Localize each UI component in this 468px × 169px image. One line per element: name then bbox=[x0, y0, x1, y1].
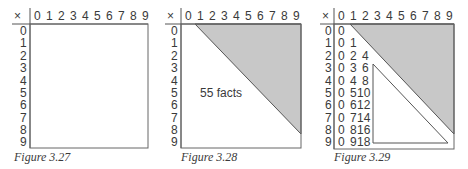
figure-3-27: × 0 1 2 3 4 5 6 7 8 9 0 1 2 3 4 5 6 7 8 … bbox=[0, 0, 156, 169]
shaded-upper-triangle bbox=[195, 24, 301, 134]
svg-text:9: 9 bbox=[350, 135, 357, 149]
svg-text:6: 6 bbox=[362, 61, 369, 75]
svg-text:0: 0 bbox=[338, 135, 345, 149]
svg-text:6: 6 bbox=[350, 98, 357, 112]
svg-text:1: 1 bbox=[20, 36, 27, 50]
svg-text:9: 9 bbox=[142, 9, 149, 23]
row-header-labels: 0 1 2 3 4 5 6 7 8 9 bbox=[20, 24, 27, 149]
svg-text:3: 3 bbox=[325, 61, 332, 75]
svg-text:9: 9 bbox=[446, 9, 453, 23]
svg-text:4: 4 bbox=[82, 9, 89, 23]
svg-text:6: 6 bbox=[171, 98, 178, 112]
svg-text:1: 1 bbox=[325, 36, 332, 50]
svg-text:1: 1 bbox=[350, 9, 357, 23]
svg-text:9: 9 bbox=[171, 135, 178, 149]
grid-frame bbox=[30, 24, 148, 148]
facts-count-label: 55 facts bbox=[200, 86, 242, 100]
svg-text:0: 0 bbox=[338, 36, 345, 50]
svg-text:9: 9 bbox=[325, 135, 332, 149]
multiplication-grid-shaded: × 0 1 2 3 4 5 6 7 8 9 0 1 2 3 4 5 6 7 8 … bbox=[155, 0, 311, 150]
figure-caption: Figure 3.28 bbox=[181, 150, 237, 165]
svg-text:6: 6 bbox=[410, 9, 417, 23]
row-header-labels: 0 1 2 3 4 5 6 7 8 9 bbox=[171, 24, 178, 149]
svg-text:0: 0 bbox=[34, 9, 41, 23]
svg-text:12: 12 bbox=[357, 98, 371, 112]
svg-text:5: 5 bbox=[245, 9, 252, 23]
column-header-labels: 0 1 2 3 4 5 6 7 8 9 bbox=[34, 9, 149, 23]
products-column-0: 0 0 0 0 0 0 0 0 0 0 bbox=[338, 24, 345, 149]
svg-text:8: 8 bbox=[130, 9, 137, 23]
svg-text:3: 3 bbox=[221, 9, 228, 23]
svg-text:4: 4 bbox=[386, 9, 393, 23]
times-symbol: × bbox=[167, 9, 174, 23]
svg-text:8: 8 bbox=[281, 9, 288, 23]
svg-text:0: 0 bbox=[338, 98, 345, 112]
row-header-labels: 0 1 2 3 4 5 6 7 8 9 bbox=[325, 24, 332, 149]
svg-text:7: 7 bbox=[422, 9, 429, 23]
multiplication-grid-empty: × 0 1 2 3 4 5 6 7 8 9 0 1 2 3 4 5 6 7 8 … bbox=[0, 0, 156, 150]
svg-text:18: 18 bbox=[357, 135, 371, 149]
svg-text:2: 2 bbox=[362, 9, 369, 23]
svg-text:6: 6 bbox=[106, 9, 113, 23]
svg-text:2: 2 bbox=[209, 9, 216, 23]
times-symbol: × bbox=[14, 9, 21, 23]
svg-text:3: 3 bbox=[70, 9, 77, 23]
svg-text:7: 7 bbox=[118, 9, 125, 23]
svg-text:2: 2 bbox=[58, 9, 65, 23]
svg-text:6: 6 bbox=[257, 9, 264, 23]
svg-text:3: 3 bbox=[20, 61, 27, 75]
svg-text:3: 3 bbox=[350, 61, 357, 75]
times-symbol: × bbox=[322, 9, 329, 23]
svg-text:1: 1 bbox=[350, 36, 357, 50]
svg-text:6: 6 bbox=[325, 98, 332, 112]
svg-text:7: 7 bbox=[269, 9, 276, 23]
figure-3-29: × 0 1 2 3 4 5 6 7 8 9 0 1 2 3 4 5 6 7 8 … bbox=[310, 0, 466, 169]
products-column-2: 4 6 8 10 12 14 16 18 bbox=[357, 49, 371, 149]
svg-text:5: 5 bbox=[398, 9, 405, 23]
svg-text:3: 3 bbox=[171, 61, 178, 75]
svg-text:9: 9 bbox=[293, 9, 300, 23]
svg-text:6: 6 bbox=[20, 98, 27, 112]
svg-text:3: 3 bbox=[374, 9, 381, 23]
svg-text:9: 9 bbox=[20, 135, 27, 149]
svg-text:1: 1 bbox=[46, 9, 53, 23]
column-header-labels: 0 1 2 3 4 5 6 7 8 9 bbox=[185, 9, 300, 23]
svg-text:0: 0 bbox=[338, 9, 345, 23]
column-header-labels: 0 1 2 3 4 5 6 7 8 9 bbox=[338, 9, 453, 23]
multiplication-grid-partial: × 0 1 2 3 4 5 6 7 8 9 0 1 2 3 4 5 6 7 8 … bbox=[310, 0, 468, 150]
svg-text:1: 1 bbox=[197, 9, 204, 23]
svg-text:8: 8 bbox=[434, 9, 441, 23]
svg-text:0: 0 bbox=[185, 9, 192, 23]
svg-text:1: 1 bbox=[171, 36, 178, 50]
svg-text:0: 0 bbox=[338, 61, 345, 75]
products-column-1: 1 2 3 4 5 6 7 8 9 bbox=[350, 36, 357, 149]
figure-3-28: × 0 1 2 3 4 5 6 7 8 9 0 1 2 3 4 5 6 7 8 … bbox=[155, 0, 311, 169]
figure-caption: Figure 3.29 bbox=[334, 150, 390, 165]
svg-text:4: 4 bbox=[233, 9, 240, 23]
svg-text:5: 5 bbox=[94, 9, 101, 23]
figure-caption: Figure 3.27 bbox=[14, 150, 70, 165]
